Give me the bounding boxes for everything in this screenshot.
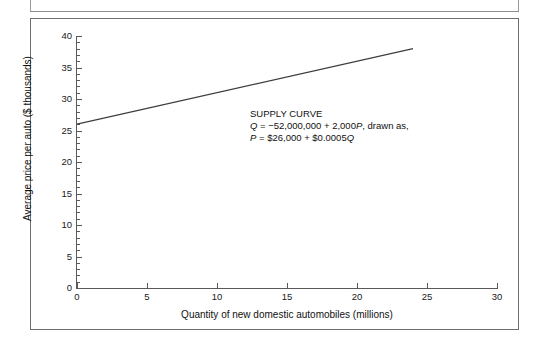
y-tick-label: 10 [50,220,72,230]
y-tick-minor [77,118,80,119]
y-tick-major [77,131,82,132]
y-axis-title: Average price per auto ($ thousands) [23,61,33,221]
y-tick-minor [77,93,80,94]
y-tick-major [77,162,82,163]
y-tick-minor [77,275,80,276]
page-top-sliver [30,0,519,11]
y-tick-minor [77,137,80,138]
y-tick-minor [77,105,80,106]
y-tick-minor [77,80,80,81]
y-tick-minor [77,238,80,239]
y-tick-minor [77,269,80,270]
y-tick-minor [77,112,80,113]
annotation-equation-price: P = $26,000 + $0.0005Q [250,132,409,144]
x-tick-major [217,283,218,288]
annotation-q-suffix: , drawn as, [362,120,408,131]
x-tick-major [357,283,358,288]
y-tick-minor [77,244,80,245]
y-tick-label: 5 [50,252,72,262]
x-axis-line [76,288,498,289]
y-tick-minor [77,231,80,232]
x-tick-major [287,283,288,288]
x-tick-major [77,283,78,288]
y-tick-minor [77,175,80,176]
y-tick-minor [77,86,80,87]
y-tick-minor [77,200,80,201]
y-tick-minor [77,61,80,62]
y-tick-minor [77,149,80,150]
y-tick-major [77,288,82,289]
page-top-rule [30,11,519,12]
y-tick-minor [77,156,80,157]
annotation-q-symbol-inline: Q [347,132,354,143]
x-tick-label: 25 [412,292,442,302]
y-tick-minor [77,42,80,43]
y-tick-major [77,194,82,195]
y-tick-label: 25 [50,126,72,136]
annotation-equation-quantity: Q = −52,000,000 + 2,000P, drawn as, [250,120,409,132]
annotation-heading: SUPPLY CURVE [250,108,409,120]
annotation-p-body: = $26,000 + $0.0005 [256,132,346,143]
y-tick-minor [77,181,80,182]
y-tick-minor [77,74,80,75]
x-tick-label: 10 [202,292,232,302]
y-tick-minor [77,263,80,264]
x-axis-title: Quantity of new domestic automobiles (mi… [77,310,497,320]
x-tick-label: 20 [342,292,372,302]
y-tick-label: 40 [50,31,72,41]
y-tick-major [77,99,82,100]
y-tick-minor [77,55,80,56]
y-tick-minor [77,212,80,213]
y-tick-minor [77,143,80,144]
y-tick-label: 20 [50,157,72,167]
y-tick-minor [77,206,80,207]
y-tick-minor [77,187,80,188]
chart-page: 0510152025303540051015202530 Average pri… [0,0,534,345]
y-tick-minor [77,49,80,50]
y-tick-major [77,257,82,258]
x-tick-label: 15 [272,292,302,302]
x-tick-major [147,283,148,288]
y-tick-major [77,68,82,69]
y-tick-minor [77,168,80,169]
y-tick-major [77,36,82,37]
y-tick-label: 15 [50,189,72,199]
supply-curve-annotation: SUPPLY CURVE Q = −52,000,000 + 2,000P, d… [250,108,409,144]
y-tick-label: 30 [50,94,72,104]
y-tick-minor [77,250,80,251]
y-tick-major [77,225,82,226]
y-tick-label: 35 [50,63,72,73]
y-tick-minor [77,219,80,220]
x-tick-major [427,283,428,288]
x-tick-major [497,283,498,288]
annotation-q-body: = −52,000,000 + 2,000 [257,120,356,131]
y-tick-minor [77,124,80,125]
x-tick-label: 0 [62,292,92,302]
x-tick-label: 30 [482,292,512,302]
x-tick-label: 5 [132,292,162,302]
figure-frame [30,18,519,330]
